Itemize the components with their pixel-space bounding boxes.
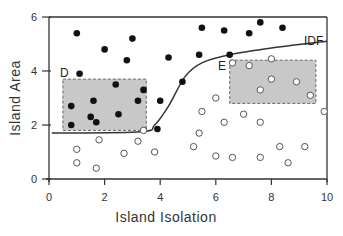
open-point (213, 95, 219, 101)
open-point (151, 149, 157, 155)
idf-label: IDF (304, 34, 323, 48)
open-point (93, 165, 99, 171)
y-tick-label: 4 (31, 65, 37, 77)
x-tick-label: 4 (157, 191, 163, 203)
x-axis-title: Island Isolation (115, 209, 216, 225)
open-point (257, 154, 263, 160)
y-tick-label: 6 (31, 11, 37, 23)
open-point (277, 143, 283, 149)
open-point (268, 76, 274, 82)
filled-point (93, 119, 100, 126)
region-d-label: D (60, 66, 69, 80)
open-point (74, 146, 80, 152)
open-point (140, 127, 146, 133)
x-tick-label: 2 (102, 191, 108, 203)
open-point (321, 108, 327, 114)
open-point (74, 160, 80, 166)
x-tick-label: 8 (268, 191, 274, 203)
filled-point (87, 114, 94, 121)
axes: 02468100246Island IsolationIsland Area (7, 11, 333, 225)
x-tick-label: 0 (46, 191, 52, 203)
filled-point (199, 25, 206, 32)
filled-point (279, 25, 286, 32)
open-point (96, 137, 102, 143)
open-point (199, 108, 205, 114)
filled-point (68, 122, 75, 129)
region-e-label: E (218, 59, 226, 73)
filled-point (246, 30, 253, 37)
region-d (63, 79, 146, 130)
open-point (213, 153, 219, 159)
open-point (285, 160, 291, 166)
filled-point (76, 70, 83, 77)
open-point (229, 154, 235, 160)
filled-point (226, 52, 233, 59)
filled-point (90, 97, 97, 104)
filled-point (179, 79, 186, 86)
open-point (240, 111, 246, 117)
open-point (302, 143, 308, 149)
x-tick-label: 10 (321, 191, 333, 203)
open-point (293, 79, 299, 85)
y-axis-title: Island Area (7, 60, 23, 136)
open-point (257, 87, 263, 93)
filled-point (115, 111, 122, 118)
open-point (196, 130, 202, 136)
filled-point (101, 46, 108, 53)
open-point (221, 119, 227, 125)
filled-point (154, 126, 161, 133)
x-tick-label: 6 (213, 191, 219, 203)
open-point (246, 62, 252, 68)
filled-point (135, 97, 142, 104)
open-point (135, 138, 141, 144)
filled-point (196, 52, 203, 59)
open-point (307, 92, 313, 98)
filled-point (74, 30, 81, 37)
filled-point (129, 35, 136, 42)
open-point (190, 143, 196, 149)
open-point (229, 60, 235, 66)
y-tick-label: 0 (31, 173, 37, 185)
y-tick-label: 2 (31, 119, 37, 131)
filled-point (68, 103, 75, 110)
filled-point (221, 27, 228, 34)
open-point (268, 56, 274, 62)
open-point (121, 150, 127, 156)
filled-point (140, 87, 147, 94)
filled-point (257, 19, 264, 26)
open-point (257, 119, 263, 125)
scatter-chart: 02468100246Island IsolationIsland Area I… (0, 0, 343, 236)
filled-point (112, 81, 119, 88)
filled-point (165, 54, 172, 61)
filled-point (124, 57, 131, 64)
filled-point (157, 97, 164, 104)
